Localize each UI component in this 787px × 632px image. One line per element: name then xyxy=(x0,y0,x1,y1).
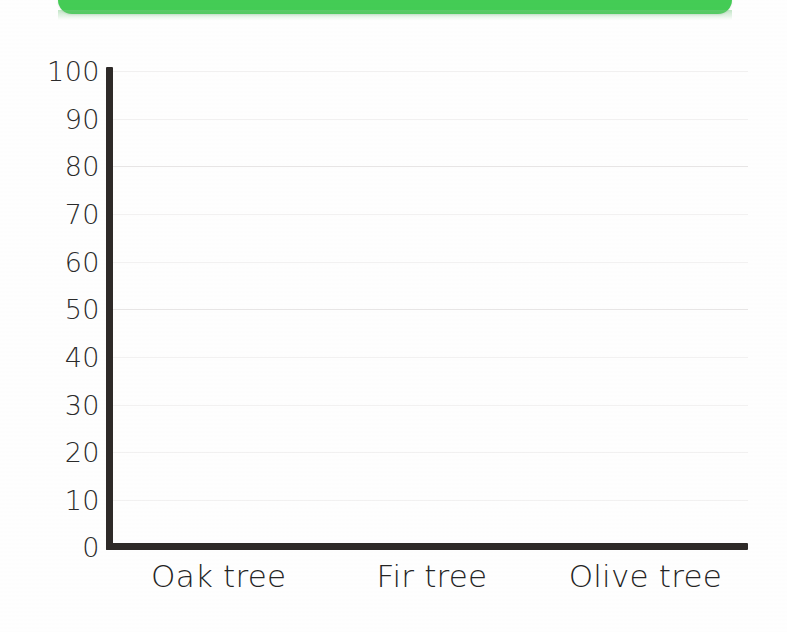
x-tick-olive-tree: Olive tree xyxy=(539,556,752,602)
y-tick-50: 50 xyxy=(28,296,100,323)
y-tick-30: 30 xyxy=(28,392,100,419)
y-axis-line xyxy=(106,67,113,550)
bar-chart: 100 90 80 70 60 50 40 30 20 10 0 Oak tre… xyxy=(0,0,787,632)
plot-area[interactable] xyxy=(113,67,748,543)
y-tick-90: 90 xyxy=(28,106,100,133)
x-tick-oak-tree: Oak tree xyxy=(112,556,325,602)
y-axis-tick-labels: 100 90 80 70 60 50 40 30 20 10 0 xyxy=(28,0,100,632)
y-tick-0: 0 xyxy=(28,534,100,561)
y-tick-10: 10 xyxy=(28,487,100,514)
y-tick-70: 70 xyxy=(28,201,100,228)
y-tick-60: 60 xyxy=(28,249,100,276)
x-axis-tick-labels: Oak tree Fir tree Olive tree xyxy=(112,556,752,602)
y-tick-100: 100 xyxy=(28,58,100,85)
y-tick-80: 80 xyxy=(28,153,100,180)
y-tick-40: 40 xyxy=(28,344,100,371)
y-tick-20: 20 xyxy=(28,439,100,466)
scanned-page: 100 90 80 70 60 50 40 30 20 10 0 Oak tre… xyxy=(0,0,787,632)
x-axis-line xyxy=(106,543,748,550)
x-tick-fir-tree: Fir tree xyxy=(325,556,538,602)
